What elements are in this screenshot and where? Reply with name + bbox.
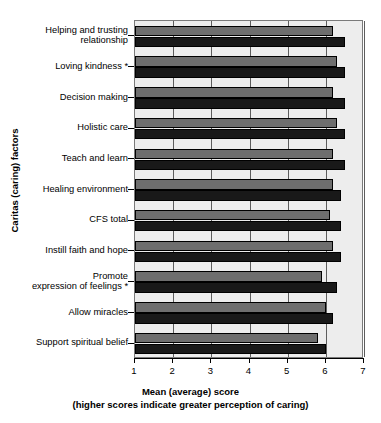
category-label: Helping and trusting relationship — [16, 25, 128, 46]
bar-gray — [135, 210, 330, 221]
category-tick — [128, 158, 134, 159]
category-tick — [128, 343, 134, 344]
bar-gray — [135, 333, 318, 344]
bar-black — [135, 313, 333, 324]
category-tick — [128, 66, 134, 67]
bar-black — [135, 221, 341, 232]
x-axis-tick-label: 3 — [198, 365, 222, 376]
x-axis-tick-label: 4 — [237, 365, 261, 376]
x-axis-tick — [325, 358, 326, 363]
plot-area — [134, 20, 363, 358]
bar-gray — [135, 26, 333, 37]
x-axis-title: Mean (average) score — [0, 386, 381, 399]
bar-gray — [135, 118, 337, 129]
gridline — [364, 21, 365, 357]
bar-black — [135, 160, 345, 171]
bar-gray — [135, 271, 322, 282]
x-axis-tick — [172, 358, 173, 363]
category-axis-labels: Helping and trusting relationshipLoving … — [18, 20, 128, 358]
category-tick — [128, 189, 134, 190]
x-axis-tick — [363, 358, 364, 363]
category-label: Loving kindness * — [16, 61, 128, 72]
bar-black — [135, 282, 337, 293]
bar-black — [135, 37, 345, 48]
category-label: Promote expression of feelings * — [16, 271, 128, 292]
x-axis-tick-label: 1 — [122, 365, 146, 376]
category-tick — [128, 312, 134, 313]
category-tick — [128, 35, 134, 36]
bar-black — [135, 67, 345, 78]
x-axis-tick-label: 7 — [351, 365, 375, 376]
category-label: Holistic care — [16, 122, 128, 133]
x-axis-tick — [210, 358, 211, 363]
category-label: Teach and learn — [16, 153, 128, 164]
category-label: Allow miracles — [16, 307, 128, 318]
category-tick — [128, 220, 134, 221]
bar-gray — [135, 179, 333, 190]
bar-black — [135, 252, 341, 263]
category-tick — [128, 250, 134, 251]
bar-black — [135, 190, 341, 201]
category-label: Support spiritual belief — [16, 337, 128, 348]
x-axis-tick — [134, 358, 135, 363]
bar-gray — [135, 87, 333, 98]
category-label: Instill faith and hope — [16, 245, 128, 256]
bar-gray — [135, 241, 333, 252]
category-tick — [128, 281, 134, 282]
x-axis-tick — [287, 358, 288, 363]
bar-black — [135, 344, 326, 355]
bar-gray — [135, 302, 326, 313]
category-label: Healing environment — [16, 184, 128, 195]
category-label: CFS total — [16, 214, 128, 225]
x-axis-tick-label: 6 — [313, 365, 337, 376]
bar-black — [135, 98, 345, 109]
x-axis-subtitle: (higher scores indicate greater percepti… — [0, 399, 381, 410]
category-label: Decision making — [16, 92, 128, 103]
category-tick — [128, 128, 134, 129]
bar-gray — [135, 149, 333, 160]
x-axis-tick-label: 5 — [275, 365, 299, 376]
x-axis-tick-label: 2 — [160, 365, 184, 376]
chart-figure: Caritas (caring) factors Helping and tru… — [0, 0, 381, 423]
bar-gray — [135, 56, 337, 67]
category-tick — [128, 97, 134, 98]
x-axis-tick — [249, 358, 250, 363]
bar-black — [135, 129, 345, 140]
